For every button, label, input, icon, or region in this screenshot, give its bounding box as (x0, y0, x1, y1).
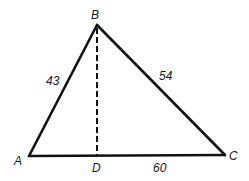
vertex-label-a: A (13, 154, 22, 168)
vertex-label-d: D (92, 161, 101, 175)
side-label-ab: 43 (46, 74, 60, 88)
side-label-bc: 54 (159, 69, 173, 83)
side-ac (29, 155, 225, 156)
vertex-label-b: B (91, 8, 99, 22)
side-bc (97, 25, 225, 155)
vertex-label-c: C (229, 149, 238, 163)
side-label-dc: 60 (153, 161, 167, 175)
triangle-diagram: B A C D 43 54 60 (0, 0, 249, 181)
side-ab (29, 25, 97, 156)
